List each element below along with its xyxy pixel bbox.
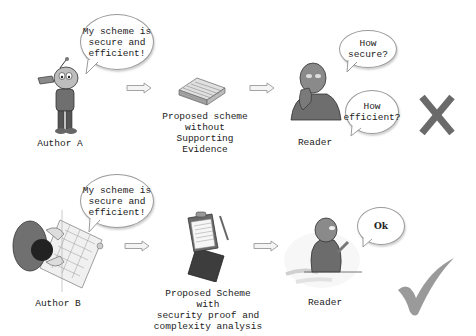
author-a-figure-icon [32, 56, 84, 136]
speech-tail-icon [360, 237, 374, 249]
reader-a-thinking-icon [287, 60, 343, 122]
document-b-caption: Proposed Scheme with security proof and … [152, 288, 264, 332]
author-a-speech-text: My scheme is secure and efficient! [83, 26, 151, 59]
paper-stack-icon [177, 70, 227, 106]
arrow-right-icon [253, 240, 279, 252]
author-a-label: Author A [30, 138, 90, 149]
check-icon [396, 256, 456, 318]
reader-ok-text: Ok [374, 221, 388, 232]
speech-tail-icon [349, 126, 363, 138]
speech-tail-icon [345, 60, 359, 74]
reader-question-efficient-text: How efficient? [344, 101, 401, 123]
document-a-caption: Proposed scheme without Supporting Evide… [155, 111, 255, 155]
arrow-right-icon [124, 240, 150, 252]
clipboard-document-icon [182, 210, 232, 282]
arrow-right-icon [249, 82, 275, 94]
reader-a-label: Reader [295, 137, 335, 148]
speech-tail-icon [86, 218, 102, 234]
arrow-right-icon [126, 82, 152, 94]
author-b-speech-text: My scheme is secure and efficient! [83, 185, 151, 218]
cross-icon [418, 94, 456, 136]
reader-question-secure-text: How secure? [340, 38, 396, 60]
speech-tail-icon [84, 60, 100, 76]
diagram: Author A My scheme is secure and efficie… [0, 0, 476, 336]
author-b-label: Author B [28, 298, 88, 309]
reader-b-label: Reader [300, 297, 350, 308]
